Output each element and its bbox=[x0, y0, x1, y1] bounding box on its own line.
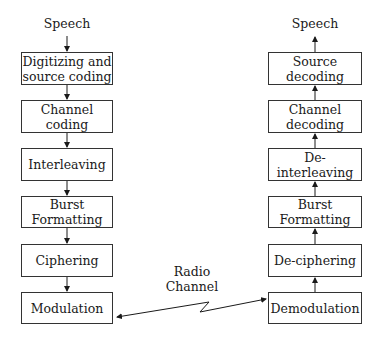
block-text-line1: Burst bbox=[298, 197, 333, 212]
block-text-line2: source coding bbox=[23, 69, 112, 84]
modulation-block: Modulation bbox=[21, 292, 113, 324]
block-text-line2: Formatting bbox=[280, 212, 351, 227]
block-text-line2: Formatting bbox=[32, 212, 103, 227]
channel-decoding-block: Channel decoding bbox=[268, 100, 362, 133]
block-text-line1: De-interleaving bbox=[269, 150, 361, 180]
radio-channel-line1: Radio bbox=[160, 264, 224, 279]
radio-channel-line2: Channel bbox=[160, 279, 224, 294]
receiver-output-label: Speech bbox=[268, 16, 362, 31]
channel-coding-block: Channel coding bbox=[21, 100, 113, 133]
block-text-line1: Modulation bbox=[31, 301, 103, 316]
block-text-line1: Interleaving bbox=[28, 157, 105, 172]
block-text-line1: Channel bbox=[41, 102, 94, 117]
ciphering-block: Ciphering bbox=[21, 244, 113, 277]
block-text-line1: Demodulation bbox=[271, 301, 360, 316]
de-interleaving-block: De-interleaving bbox=[268, 148, 362, 181]
burst-formatting-block-tx: Burst Formatting bbox=[21, 196, 113, 228]
source-decoding-block: Source decoding bbox=[268, 52, 362, 85]
block-text-line2: decoding bbox=[286, 69, 344, 84]
digitizing-source-coding-block: Digitizing and source coding bbox=[21, 52, 113, 85]
burst-formatting-block-rx: Burst Formatting bbox=[268, 196, 362, 228]
demodulation-block: Demodulation bbox=[268, 292, 362, 324]
block-text-line1: Source bbox=[293, 54, 338, 69]
block-text-line1: Burst bbox=[50, 197, 85, 212]
block-text-line1: Digitizing and bbox=[22, 54, 111, 69]
block-text-line1: De-ciphering bbox=[274, 253, 356, 268]
radio-channel-label: Radio Channel bbox=[160, 264, 224, 294]
de-ciphering-block: De-ciphering bbox=[268, 244, 362, 277]
transmitter-input-label: Speech bbox=[21, 16, 113, 31]
block-text-line1: Channel bbox=[289, 102, 342, 117]
interleaving-block: Interleaving bbox=[21, 148, 113, 181]
block-text-line2: coding bbox=[46, 117, 89, 132]
block-text-line1: Ciphering bbox=[35, 253, 98, 268]
block-text-line2: decoding bbox=[286, 117, 344, 132]
